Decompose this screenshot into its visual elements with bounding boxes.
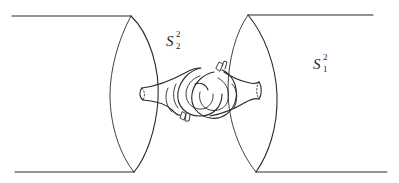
right-tube-mouth-hidden <box>257 82 259 99</box>
label-subscript: 1 <box>323 65 328 74</box>
label-subscript: 2 <box>176 42 181 51</box>
left-tube-mouth <box>140 88 143 100</box>
top-cuff-2 <box>222 61 227 69</box>
right-disk-front-arc <box>248 15 277 172</box>
right-tube-top-edge <box>224 72 259 84</box>
left-cylinder <box>12 16 158 172</box>
label-s2-1: S21 <box>313 57 321 72</box>
left-tube-back-contour <box>166 88 172 112</box>
label-base: S <box>313 56 321 72</box>
right-tube-mouth <box>259 82 261 99</box>
left-tube-mouth-hidden <box>142 88 144 100</box>
label-superscript: 2 <box>323 53 328 62</box>
label-s2-2: S22 <box>166 34 174 49</box>
right-disk-back-arc <box>228 15 256 172</box>
topology-figure: S22 S21 <box>0 0 399 183</box>
left-tube-top-edge <box>142 68 200 88</box>
right-ring-inner <box>199 78 228 111</box>
label-superscript: 2 <box>176 30 181 39</box>
right-cylinder <box>228 15 387 172</box>
figure-svg <box>0 0 399 183</box>
link-crossing-segment <box>195 83 208 90</box>
bottom-cuff-2 <box>185 114 190 121</box>
label-base: S <box>166 33 174 49</box>
left-disk-back-arc <box>110 16 134 172</box>
left-disk-front-arc <box>131 16 158 172</box>
